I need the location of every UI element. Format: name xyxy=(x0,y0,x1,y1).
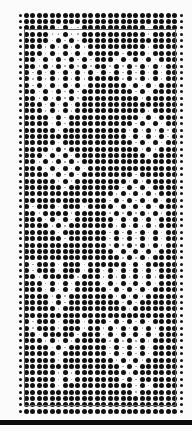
punched-hole xyxy=(82,13,87,18)
sprocket-hole xyxy=(180,333,183,336)
punched-hole xyxy=(69,409,74,414)
sprocket-hole xyxy=(19,20,22,23)
sprocket-hole xyxy=(180,71,183,74)
punched-hole xyxy=(114,409,119,414)
sprocket-hole xyxy=(180,327,183,330)
sprocket-hole xyxy=(19,141,22,144)
sprocket-hole xyxy=(180,173,183,176)
sprocket-hole xyxy=(180,378,183,381)
sprocket-hole xyxy=(19,307,22,310)
punched-hole xyxy=(133,13,138,18)
sprocket-hole xyxy=(180,180,183,183)
sprocket-hole xyxy=(19,167,22,170)
sprocket-hole xyxy=(180,397,183,400)
sprocket-hole xyxy=(180,371,183,374)
sprocket-hole xyxy=(180,346,183,349)
sprocket-hole xyxy=(180,129,183,132)
punched-hole xyxy=(121,19,126,24)
sprocket-hole xyxy=(180,167,183,170)
punched-hole xyxy=(63,409,68,414)
sprocket-hole xyxy=(180,186,183,189)
punched-hole xyxy=(95,409,100,414)
sprocket-hole xyxy=(19,71,22,74)
sprocket-hole xyxy=(180,301,183,304)
punched-hole xyxy=(159,13,164,18)
punched-hole xyxy=(114,19,119,24)
sprocket-hole xyxy=(19,339,22,342)
punched-hole xyxy=(159,19,164,24)
sprocket-hole xyxy=(19,212,22,215)
sprocket-hole xyxy=(180,90,183,93)
sprocket-hole xyxy=(180,160,183,163)
sprocket-hole xyxy=(180,256,183,259)
sprocket-hole xyxy=(19,269,22,272)
punched-hole xyxy=(82,19,87,24)
punched-hole xyxy=(166,409,171,414)
sprocket-hole xyxy=(19,378,22,381)
sprocket-hole xyxy=(180,205,183,208)
sprocket-hole xyxy=(19,352,22,355)
sprocket-hole xyxy=(19,231,22,234)
sprocket-hole xyxy=(19,327,22,330)
punched-hole xyxy=(69,13,74,18)
sprocket-hole xyxy=(180,275,183,278)
sprocket-hole xyxy=(180,58,183,61)
punched-hole xyxy=(146,19,151,24)
sprocket-hole xyxy=(19,333,22,336)
sprocket-hole xyxy=(180,250,183,253)
sprocket-hole xyxy=(19,173,22,176)
sprocket-hole xyxy=(19,14,22,17)
sprocket-hole xyxy=(180,339,183,342)
punched-hole xyxy=(88,13,93,18)
sprocket-hole xyxy=(180,116,183,119)
punched-hole xyxy=(172,409,177,414)
sprocket-hole xyxy=(19,275,22,278)
sprocket-hole xyxy=(19,77,22,80)
sprocket-hole xyxy=(19,205,22,208)
punched-hole xyxy=(127,19,132,24)
sprocket-hole xyxy=(19,314,22,317)
sprocket-hole xyxy=(180,97,183,100)
punched-hole xyxy=(24,19,29,24)
punched-hole xyxy=(56,13,61,18)
punched-hole xyxy=(30,19,35,24)
punched-hole xyxy=(127,13,132,18)
sprocket-hole xyxy=(19,192,22,195)
sprocket-hole xyxy=(19,97,22,100)
punched-hole xyxy=(127,409,132,414)
sprocket-hole xyxy=(180,122,183,125)
punched-hole xyxy=(50,409,55,414)
sprocket-hole xyxy=(19,116,22,119)
punched-hole xyxy=(101,409,106,414)
sprocket-hole xyxy=(180,154,183,157)
sprocket-hole xyxy=(180,33,183,36)
sprocket-hole xyxy=(180,224,183,227)
sprocket-hole xyxy=(19,320,22,323)
punched-hole xyxy=(159,409,164,414)
punched-hole xyxy=(24,13,29,18)
sprocket-hole xyxy=(19,288,22,291)
sprocket-hole xyxy=(19,346,22,349)
sprocket-hole xyxy=(19,256,22,259)
punched-hole xyxy=(43,19,48,24)
sprocket-hole xyxy=(180,295,183,298)
sprocket-hole xyxy=(19,301,22,304)
sprocket-hole xyxy=(19,397,22,400)
punched-hole xyxy=(114,13,119,18)
punched-hole xyxy=(95,19,100,24)
sprocket-hole xyxy=(19,33,22,36)
punched-hole xyxy=(153,13,158,18)
sprocket-hole xyxy=(180,135,183,138)
punched-hole xyxy=(56,19,61,24)
punched-hole xyxy=(75,19,80,24)
sprocket-hole xyxy=(180,403,183,406)
punched-hole xyxy=(166,13,171,18)
punched-hole xyxy=(121,13,126,18)
sprocket-hole xyxy=(180,282,183,285)
sprocket-hole xyxy=(19,403,22,406)
punched-hole xyxy=(82,409,87,414)
sprocket-hole xyxy=(180,77,183,80)
punched-hole xyxy=(121,409,126,414)
sprocket-hole xyxy=(19,410,22,413)
sprocket-hole xyxy=(19,244,22,247)
